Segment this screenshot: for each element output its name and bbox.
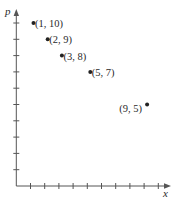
data-point-label: (3, 8) — [63, 51, 86, 63]
axes — [13, 9, 171, 189]
data-point-marker — [145, 103, 149, 107]
scatter-chart: p x (1, 10)(2, 9)(3, 8)(5, 7)(9, 5) — [0, 0, 174, 209]
data-point-label: (9, 5) — [119, 103, 142, 115]
data-point-label: (2, 9) — [49, 34, 72, 46]
x-axis-label: x — [162, 187, 168, 199]
chart-canvas: p x (1, 10)(2, 9)(3, 8)(5, 7)(9, 5) — [0, 0, 174, 209]
y-axis-label: p — [4, 5, 11, 17]
data-point-label: (1, 10) — [35, 18, 63, 30]
y-axis-arrow-icon — [14, 9, 19, 16]
data-points: (1, 10)(2, 9)(3, 8)(5, 7)(9, 5) — [32, 18, 150, 115]
data-point-label: (5, 7) — [92, 67, 115, 79]
